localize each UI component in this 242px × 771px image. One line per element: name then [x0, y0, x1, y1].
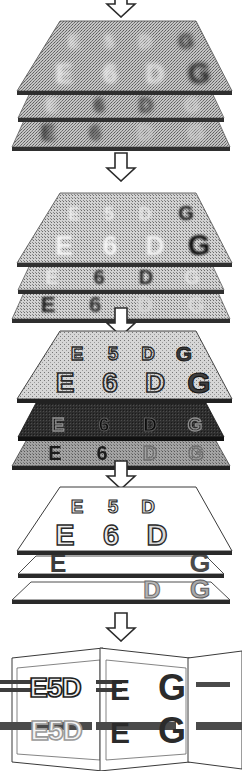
svg-text:E: E	[52, 414, 65, 435]
svg-text:6: 6	[99, 414, 110, 435]
svg-text:E: E	[68, 204, 80, 224]
stage-5-perspective-planes: E5D E5D E E G G	[0, 648, 242, 771]
svg-text:G: G	[178, 202, 194, 224]
svg-text:G: G	[158, 667, 186, 708]
svg-text:G: G	[187, 292, 204, 317]
svg-text:E: E	[55, 59, 73, 89]
svg-text:G: G	[188, 229, 211, 261]
svg-text:G: G	[158, 710, 186, 751]
svg-text:E: E	[56, 367, 75, 398]
svg-text:6: 6	[103, 519, 119, 551]
svg-text:G: G	[188, 57, 211, 89]
svg-text:D: D	[139, 266, 153, 288]
svg-text:G: G	[188, 414, 203, 435]
svg-text:E: E	[71, 343, 84, 364]
svg-text:E: E	[55, 519, 74, 551]
svg-text:E: E	[45, 94, 58, 116]
svg-text:E: E	[110, 673, 130, 706]
svg-text:D: D	[141, 343, 155, 364]
layered-plane-diagram: E 6 D G E 6 D G E 5 D G	[0, 0, 242, 771]
stage-5-pane-middle: E E G G	[96, 648, 190, 771]
svg-text:6: 6	[102, 367, 118, 398]
svg-text:D: D	[145, 231, 165, 261]
diagram-canvas: E 6 D G E 6 D G E 5 D G	[0, 0, 242, 771]
svg-text:D: D	[143, 442, 157, 464]
svg-text:D: D	[145, 367, 165, 398]
svg-text:D: D	[137, 120, 153, 145]
svg-text:6: 6	[89, 120, 101, 145]
svg-text:E: E	[45, 266, 58, 288]
svg-text:D: D	[143, 414, 157, 435]
svg-text:G: G	[178, 30, 194, 52]
svg-text:5: 5	[104, 204, 114, 224]
svg-text:D: D	[145, 59, 165, 89]
stage-4-sheet-top-glyphs: E 5 D E 6 D	[55, 496, 167, 551]
svg-text:E: E	[110, 716, 130, 749]
stage-3-sheet-middle: E 6 D G	[18, 403, 224, 441]
svg-text:D: D	[147, 519, 168, 551]
svg-text:D: D	[137, 292, 153, 317]
svg-text:D: D	[139, 204, 152, 224]
svg-text:6: 6	[102, 59, 117, 89]
svg-text:5: 5	[104, 32, 114, 52]
stage-5-pane-left: E5D E5D	[0, 648, 103, 771]
svg-text:G: G	[176, 342, 192, 365]
svg-text:G: G	[190, 574, 210, 604]
svg-text:G: G	[184, 266, 200, 288]
svg-text:E: E	[41, 120, 56, 145]
svg-text:G: G	[187, 366, 210, 399]
svg-text:E: E	[68, 32, 80, 52]
svg-text:6: 6	[102, 231, 117, 261]
svg-text:G: G	[184, 94, 200, 116]
svg-text:D: D	[139, 94, 153, 116]
svg-text:E: E	[71, 496, 84, 517]
svg-text:E5D: E5D	[30, 715, 82, 746]
svg-text:D: D	[143, 576, 160, 603]
svg-text:E5D: E5D	[29, 672, 81, 703]
svg-text:5: 5	[108, 496, 119, 517]
svg-text:6: 6	[93, 266, 104, 288]
svg-text:D: D	[141, 496, 155, 517]
svg-text:G: G	[187, 120, 204, 145]
svg-text:6: 6	[93, 94, 104, 116]
svg-text:6: 6	[96, 442, 107, 464]
stage-5-pane-right	[188, 651, 242, 769]
svg-text:G: G	[188, 442, 204, 464]
svg-text:E: E	[55, 231, 73, 261]
svg-text:5: 5	[108, 343, 119, 364]
svg-text:E: E	[41, 292, 56, 317]
svg-text:D: D	[139, 32, 152, 52]
svg-text:6: 6	[89, 292, 101, 317]
svg-text:E: E	[48, 442, 61, 464]
